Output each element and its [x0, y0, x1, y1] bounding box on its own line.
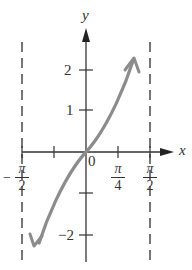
y-tick-label-2: 2 — [64, 63, 72, 78]
y-tick-label-neg2: −2 — [58, 228, 74, 243]
tangent-graph — [0, 0, 192, 270]
x-tick-label-neg-sign: − — [3, 170, 11, 186]
x-tick-label-neg-pi-half: π 2 — [15, 162, 29, 193]
y-axis-arrow-icon — [82, 28, 90, 42]
y-tick-label-1: 1 — [66, 103, 74, 118]
x-tick-label-pi-quarter: π 4 — [111, 162, 125, 193]
x-axis-arrow-icon — [160, 148, 174, 156]
y-axis-label: y — [82, 8, 89, 23]
x-axis-label: x — [179, 143, 186, 158]
origin-label: 0 — [88, 154, 96, 169]
x-tick-label-pi-half: π 2 — [143, 162, 157, 193]
